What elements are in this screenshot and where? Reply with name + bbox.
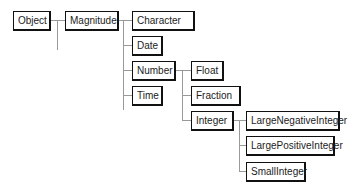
- node-magnitude: Magnitude: [65, 11, 119, 31]
- edge-integer-largenegativeinteger: [234, 120, 246, 121]
- edge-number-integer: [182, 120, 191, 121]
- edge-magnitude-date: [123, 45, 132, 46]
- node-integer: Integer: [191, 111, 234, 131]
- object-branch-trunk: [57, 20, 58, 50]
- node-date: Date: [132, 36, 163, 56]
- node-smallinteger: SmallInteger: [246, 162, 306, 182]
- edge-magnitude-time: [123, 95, 132, 96]
- node-float: Float: [191, 61, 224, 81]
- node-time: Time: [132, 86, 163, 106]
- node-largepositiveinteger: LargePositiveInteger: [246, 136, 335, 156]
- edge-integer-smallinteger: [239, 171, 246, 172]
- node-number: Number: [132, 61, 176, 81]
- node-largenegativeinteger: LargeNegativeInteger: [246, 111, 340, 131]
- edge-magnitude-number: [123, 70, 132, 71]
- magnitude-branch-trunk: [123, 20, 124, 110]
- node-character: Character: [132, 11, 195, 31]
- edge-object-magnitude: [51, 20, 65, 21]
- node-object: Object: [13, 11, 51, 31]
- edge-number-fraction: [182, 95, 191, 96]
- edge-magnitude-character: [119, 20, 132, 21]
- edge-number-float: [176, 70, 191, 71]
- edge-integer-largepositiveinteger: [239, 145, 246, 146]
- node-fraction: Fraction: [191, 86, 241, 106]
